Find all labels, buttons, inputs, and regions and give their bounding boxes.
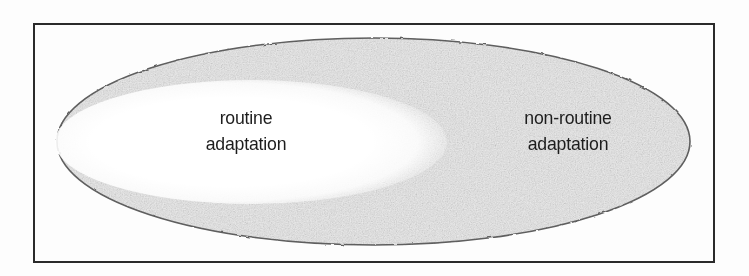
label-non-routine-line1: non-routine bbox=[475, 105, 661, 131]
label-non-routine-line2: adaptation bbox=[475, 131, 661, 157]
label-non-routine-adaptation: non-routine adaptation bbox=[475, 105, 661, 157]
label-routine-adaptation: routine adaptation bbox=[153, 105, 339, 157]
label-routine-line1: routine bbox=[153, 105, 339, 131]
figure-container: routine adaptation non-routine adaptatio… bbox=[0, 0, 749, 276]
label-routine-line2: adaptation bbox=[153, 131, 339, 157]
